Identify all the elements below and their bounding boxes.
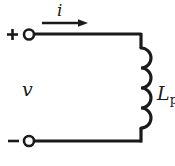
circuit-diagram: i v Lp (0, 0, 175, 166)
voltage-label: v (22, 80, 33, 99)
negative-terminal-node (24, 136, 34, 146)
plus-sign-icon (7, 29, 18, 40)
inductance-subscript: p (170, 92, 175, 107)
inductance-label: Lp (157, 84, 175, 106)
current-direction-arrow (42, 19, 88, 27)
inductance-symbol: L (157, 82, 170, 104)
positive-terminal-node (24, 30, 34, 40)
inductor-coil (141, 48, 151, 128)
current-label: i (57, 2, 62, 19)
